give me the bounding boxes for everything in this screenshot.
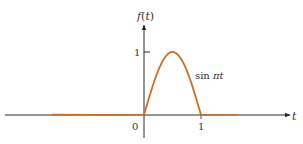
x-tick-1-label: 1	[198, 121, 204, 132]
x-axis-label: t	[292, 110, 297, 123]
y-tick-1-label: 1	[134, 47, 140, 58]
curve-label: sin πt	[195, 70, 225, 81]
origin-label: 0	[132, 121, 138, 132]
y-axis-label: f(t)	[136, 10, 154, 23]
chart-figure: f(t) t 0 1 1 sin πt	[0, 0, 303, 144]
sine-arc	[144, 52, 201, 115]
